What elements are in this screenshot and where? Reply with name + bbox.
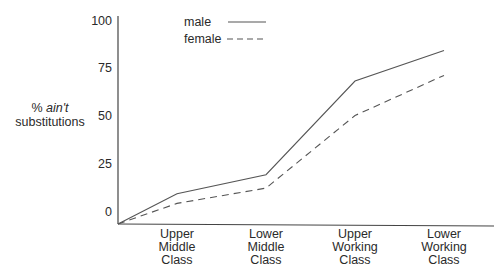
y-tick-label: 75	[98, 61, 112, 75]
x-category-label: Working	[421, 240, 467, 254]
female-series-line	[118, 75, 444, 224]
legend: male female	[184, 15, 267, 46]
x-category-label: Lower	[427, 227, 461, 241]
legend-label-female: female	[184, 32, 222, 46]
x-category-label: Class	[161, 253, 192, 267]
y-tick-label: 25	[98, 157, 112, 171]
legend-label-male: male	[184, 15, 211, 29]
y-tick-label: 50	[98, 109, 112, 123]
x-category-labels: UpperMiddleClassLowerMiddleClassUpperWor…	[159, 227, 467, 267]
y-axis-label-line2: substitutions	[15, 115, 84, 129]
x-category-label: Upper	[338, 227, 372, 241]
y-axis-label: % ain't	[31, 101, 69, 115]
x-category-label: Upper	[160, 227, 194, 241]
x-category-label: Class	[428, 253, 459, 267]
male-series-line	[118, 51, 444, 224]
x-category-label: Middle	[159, 240, 196, 254]
x-category-label: Middle	[248, 240, 285, 254]
y-tick-labels: 0255075100	[91, 14, 112, 219]
x-category-label: Class	[250, 253, 281, 267]
x-category-label: Working	[332, 240, 378, 254]
x-category-label: Lower	[249, 227, 283, 241]
y-tick-label: 0	[105, 205, 112, 219]
x-axis	[118, 224, 494, 226]
x-category-label: Class	[339, 253, 370, 267]
y-tick-label: 100	[91, 14, 112, 28]
line-chart: 0255075100 % ain't substitutions male fe…	[0, 0, 494, 280]
